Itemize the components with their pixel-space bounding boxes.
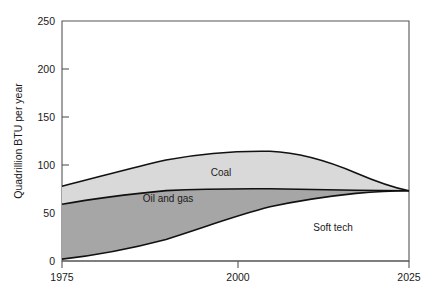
series-label-soft-tech: Soft tech [313, 222, 352, 233]
stacked-area-chart: Quadrillion BTU per year 250 200 150 100… [0, 0, 434, 294]
series-label-oil-and-gas: Oil and gas [143, 193, 194, 204]
x-tick-label-1975: 1975 [50, 271, 74, 283]
y-tick-label-250: 250 [37, 15, 55, 27]
x-tick-label-2000: 2000 [226, 271, 250, 283]
x-tick-label-2025: 2025 [397, 271, 421, 283]
y-axis-title: Quadrillion BTU per year [12, 83, 24, 199]
y-tick-label-50: 50 [43, 207, 55, 219]
y-tick-label-200: 200 [37, 63, 55, 75]
series-label-coal: Coal [211, 167, 232, 178]
y-tick-label-100: 100 [37, 159, 55, 171]
chart-container: Quadrillion BTU per year 250 200 150 100… [0, 0, 434, 294]
y-tick-label-150: 150 [37, 111, 55, 123]
y-tick-label-0: 0 [49, 255, 55, 267]
